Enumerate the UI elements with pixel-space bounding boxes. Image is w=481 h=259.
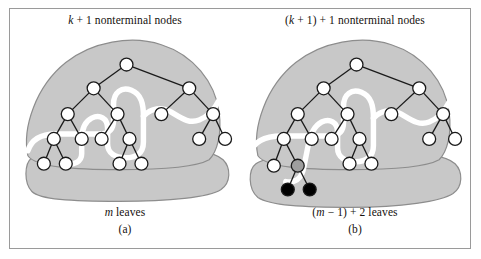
subfigure-b: (k + 1) + 1 nonterminal nodes	[240, 9, 470, 248]
tree-leaf	[343, 157, 356, 170]
figure-frame: k + 1 nonterminal nodes	[9, 8, 471, 249]
tree-node	[183, 82, 196, 95]
tree-node	[123, 132, 136, 145]
tree-node	[437, 108, 450, 121]
converted-node	[291, 159, 304, 172]
variable-m-b: m	[316, 206, 324, 218]
tree-leaf	[219, 132, 232, 145]
tree-leaf	[135, 157, 148, 170]
tree-node	[291, 108, 304, 121]
tree-node	[47, 132, 60, 145]
tree-node	[385, 108, 398, 121]
tree-leaf	[267, 159, 280, 172]
caption-leaf-rest-a: leaves	[113, 206, 145, 218]
tree-node	[341, 108, 354, 121]
tree-leaf	[325, 132, 338, 145]
caption-leaf-count-a: m leaves	[10, 206, 240, 218]
tree-node	[353, 132, 366, 145]
subfigure-a: k + 1 nonterminal nodes	[10, 9, 240, 248]
tree-node	[317, 82, 330, 95]
tree-node	[277, 132, 290, 145]
tree-leaf	[75, 132, 88, 145]
tree-node	[207, 108, 220, 121]
new-tree-leaf	[303, 183, 316, 196]
new-tree-leaf	[281, 183, 294, 196]
variable-m-a: m	[105, 206, 113, 218]
tree-leaf	[37, 157, 50, 170]
tree-leaf	[113, 157, 126, 170]
tree-node	[120, 58, 133, 71]
tree-leaf	[305, 132, 318, 145]
tree-node	[61, 108, 74, 121]
tree-node	[111, 108, 124, 121]
tree-node	[350, 58, 363, 71]
tree-leaf	[95, 132, 108, 145]
tree-leaf	[193, 132, 206, 145]
tree-leaf	[59, 157, 72, 170]
tree-node	[87, 82, 100, 95]
tree-node	[155, 108, 168, 121]
caption-leaf-rest-b: − 1) + 2 leaves	[325, 206, 398, 218]
tree-node	[413, 82, 426, 95]
tree-leaf	[423, 132, 436, 145]
subfigure-label-a: (a)	[10, 223, 240, 235]
subfigure-label-b: (b)	[240, 223, 470, 235]
caption-leaf-count-b: (m − 1) + 2 leaves	[240, 206, 470, 218]
tree-leaf	[365, 157, 378, 170]
tree-leaf	[449, 132, 462, 145]
